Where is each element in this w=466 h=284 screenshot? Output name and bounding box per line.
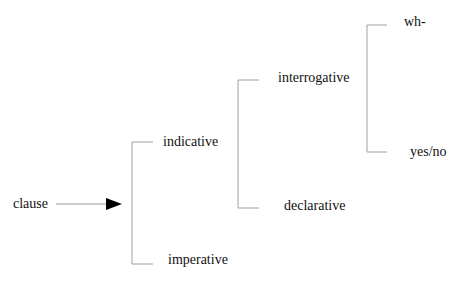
node-wh: wh- [404, 14, 426, 30]
interrogative-bracket [367, 25, 387, 152]
node-interrogative: interrogative [278, 70, 350, 86]
node-clause: clause [13, 196, 48, 212]
indicative-bracket [238, 80, 259, 208]
node-indicative: indicative [163, 134, 218, 150]
mood-bracket [132, 142, 153, 264]
node-yes-no: yes/no [410, 144, 447, 160]
connector-lines [0, 0, 466, 284]
arrowhead-icon [106, 198, 122, 210]
node-declarative: declarative [284, 198, 345, 214]
node-imperative: imperative [168, 252, 228, 268]
